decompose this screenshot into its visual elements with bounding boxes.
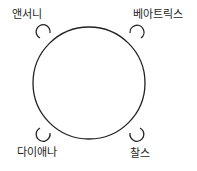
seat-label-top-right: 베아트릭스 bbox=[133, 8, 183, 21]
seat-bottom-left-icon bbox=[36, 128, 50, 141]
seat-top-left-icon bbox=[36, 25, 50, 38]
seat-label-bottom-left: 다이애나 bbox=[17, 146, 57, 159]
seat-top-right-icon bbox=[130, 25, 144, 38]
seat-label-bottom-right: 찰스 bbox=[130, 147, 150, 160]
round-table bbox=[33, 27, 145, 139]
seat-bottom-right-icon bbox=[130, 128, 144, 141]
seat-label-top-left: 앤서니 bbox=[12, 8, 42, 21]
